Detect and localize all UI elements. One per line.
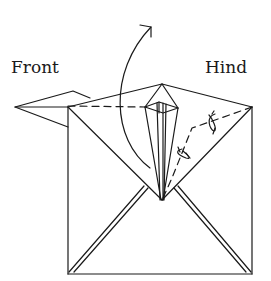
central-kite	[145, 84, 178, 200]
front-flap	[15, 91, 90, 127]
rotate-arrow-upper	[209, 111, 215, 134]
curved-fold-arrow	[120, 25, 151, 168]
origami-diagram	[0, 0, 271, 281]
